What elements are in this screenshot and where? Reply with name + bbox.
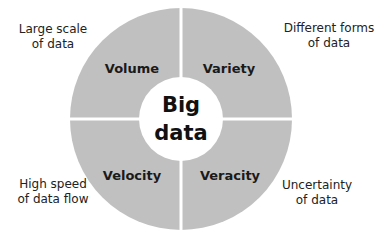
velocity-desc-line2: of data flow — [18, 192, 89, 206]
quadrant-veracity-label: Veracity — [200, 168, 261, 183]
center-circle — [139, 77, 223, 161]
variety-desc-line2: of data — [308, 36, 350, 50]
big-data-diagram: Big data Volume Variety Velocity Veracit… — [0, 0, 385, 244]
veracity-desc-line1: Uncertainty — [282, 178, 352, 192]
velocity-desc-line1: High speed — [19, 177, 87, 191]
volume-desc-line2: of data — [32, 37, 74, 51]
quadrant-volume-label: Volume — [105, 61, 160, 76]
quadrant-variety-label: Variety — [203, 61, 256, 76]
veracity-desc-line2: of data — [296, 193, 338, 207]
volume-desc-line1: Large scale — [19, 22, 88, 36]
variety-desc-line1: Different forms — [284, 21, 375, 35]
quadrant-velocity-label: Velocity — [103, 168, 162, 183]
center-title-line1: Big — [162, 93, 200, 117]
center-title-line2: data — [154, 121, 207, 145]
